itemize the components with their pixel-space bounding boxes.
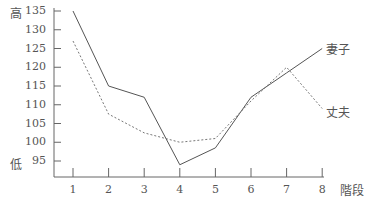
legend-label-wife: 妻子 <box>326 40 350 57</box>
y-tick-label: 105 <box>20 117 46 130</box>
x-tick-label: 4 <box>173 183 187 196</box>
x-tick-label: 6 <box>244 183 258 196</box>
legend-label-husband: 丈夫 <box>326 103 350 120</box>
line-chart: 高 低 階段 妻子 丈夫 13513012512011511010510095 … <box>0 0 369 206</box>
x-tick-label: 3 <box>137 183 151 196</box>
y-tick-label: 120 <box>20 60 46 73</box>
y-tick-label: 135 <box>20 4 46 17</box>
x-tick-label: 7 <box>280 183 294 196</box>
y-tick-label: 125 <box>20 42 46 55</box>
x-tick-label: 2 <box>102 183 116 196</box>
x-axis-label: 階段 <box>340 181 364 198</box>
y-tick-label: 100 <box>20 135 46 148</box>
series-line-wife <box>73 11 322 165</box>
y-tick-label: 115 <box>20 79 46 92</box>
x-tick-label: 5 <box>208 183 222 196</box>
x-tick-label: 8 <box>315 183 329 196</box>
y-tick-label: 110 <box>20 98 46 111</box>
x-tick-label: 1 <box>66 183 80 196</box>
y-tick-label: 95 <box>20 154 46 167</box>
series-line-husband <box>73 41 322 142</box>
plot-area <box>0 0 369 206</box>
y-tick-label: 130 <box>20 23 46 36</box>
